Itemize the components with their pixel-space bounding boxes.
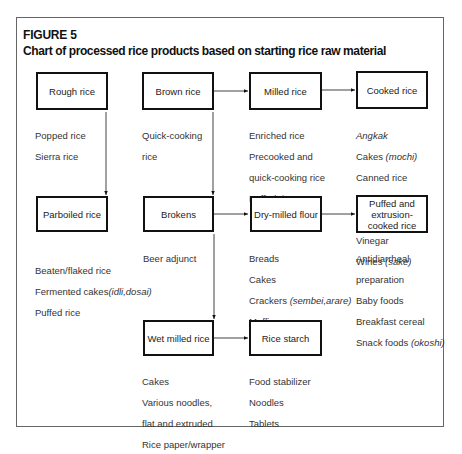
product-item: Breakfast cereal: [356, 317, 445, 328]
product-item: quick-cooking rice: [249, 173, 325, 184]
product-item: Crackers: [249, 295, 290, 306]
node-label: Rice starch: [262, 333, 310, 344]
node-parboiled-rice: Parboiled rice: [36, 196, 108, 232]
node-label: Cooked rice: [367, 85, 418, 96]
product-item: Popped rice: [35, 131, 86, 142]
product-item: Noodles: [249, 398, 311, 409]
product-item: Canned rice: [356, 173, 418, 184]
product-note: (sembei,arare): [290, 295, 352, 306]
node-brown-rice: Brown rice: [142, 72, 214, 110]
node-puffed-extrusion-cooked-rice: Puffed and extrusion-cooked rice: [356, 195, 428, 233]
products-brokens: Beer adjunct: [143, 243, 196, 275]
node-label: Puffed and extrusion-cooked rice: [366, 198, 418, 231]
node-label: Parboiled rice: [43, 209, 101, 220]
node-cooked-rice: Cooked rice: [356, 71, 428, 109]
node-label: Wet milled rice: [147, 333, 209, 344]
product-item: Fermented cakes: [35, 286, 108, 297]
node-label: Dry-milled flour: [254, 209, 318, 220]
product-item: Tablets: [249, 419, 311, 430]
product-note: (idli,dosai): [108, 286, 151, 297]
product-item: Beaten/flaked rice: [35, 266, 152, 277]
products-rice-starch: Food stabilizer Noodles Tablets: [249, 366, 311, 440]
product-item: Various noodles,: [142, 398, 225, 409]
node-label: Milled rice: [264, 86, 307, 97]
node-rice-starch: Rice starch: [249, 320, 322, 356]
product-item: Quick-cooking: [142, 131, 202, 142]
product-item: Cakes: [142, 377, 225, 388]
product-note: (okoshi): [411, 337, 445, 348]
products-puffed-extrusion: Antidiarrheal preparation Baby foods Bre…: [356, 243, 445, 359]
products-rough-rice: Popped rice Sierra rice: [35, 120, 86, 173]
product-item: Breads: [249, 254, 351, 265]
product-item: Snack foods: [356, 337, 411, 348]
product-item: Baby foods: [356, 296, 445, 307]
products-brown-rice: Quick-cooking rice: [142, 120, 202, 173]
node-label: Brokens: [161, 209, 196, 220]
node-label: Rough rice: [49, 86, 95, 97]
node-dry-milled-flour: Dry-milled flour: [250, 196, 322, 232]
node-wet-milled-rice: Wet milled rice: [143, 320, 214, 356]
product-item: Puffed rice: [35, 308, 152, 319]
product-item: Cakes: [356, 151, 383, 162]
product-item: Cakes: [249, 275, 351, 286]
product-item: preparation: [356, 275, 445, 286]
product-item: Sierra rice: [35, 152, 86, 163]
node-rough-rice: Rough rice: [36, 72, 108, 110]
product-item: Food stabilizer: [249, 377, 311, 388]
product-item: Enriched rice: [249, 131, 325, 142]
product-item: rice: [142, 152, 202, 163]
products-parboiled-rice: Beaten/flaked rice Fermented cakes(idli,…: [35, 255, 152, 329]
product-item: Angkak: [356, 130, 388, 141]
node-brokens: Brokens: [143, 196, 214, 232]
product-item: flat and extruded: [142, 419, 225, 430]
node-label: Brown rice: [156, 86, 201, 97]
product-item: Rice paper/wrapper: [142, 440, 225, 451]
product-item: Antidiarrheal: [356, 254, 445, 265]
product-item: Precooked and: [249, 152, 325, 163]
products-wet-milled-rice: Cakes Various noodles, flat and extruded…: [142, 366, 225, 454]
node-milled-rice: Milled rice: [249, 72, 322, 110]
product-note: (mochi): [386, 151, 418, 162]
product-item: Beer adjunct: [143, 254, 196, 265]
